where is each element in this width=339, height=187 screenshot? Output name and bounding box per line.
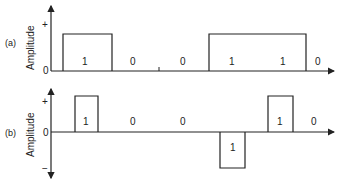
panel-b-bit-2: 0 [130, 116, 136, 127]
panel-b-bit-5: 1 [277, 116, 283, 127]
panel-a: (a) Amplitude + 0 1 0 0 1 1 0 [5, 6, 334, 76]
panel-b-bit-3: 0 [180, 116, 186, 127]
panel-b-zero-tick: 0 [43, 127, 49, 138]
panel-b-bit-1: 1 [83, 116, 89, 127]
panel-a-plus-tick: + [42, 19, 48, 30]
panel-a-bit-1: 1 [82, 56, 88, 67]
panel-a-pulse-2 [209, 34, 306, 71]
panel-a-bit-4: 1 [229, 56, 235, 67]
panel-b-bit-6: 0 [311, 116, 317, 127]
panel-a-bit-6: 0 [315, 56, 321, 67]
panel-a-label: (a) [5, 38, 16, 48]
line-coding-diagram: (a) Amplitude + 0 1 0 0 1 1 0 (b) Amplit… [0, 0, 339, 187]
panel-b-bit-4: 1 [230, 142, 236, 153]
panel-b-ylabel: Amplitude [25, 112, 36, 157]
panel-b-plus-tick: + [42, 96, 48, 107]
panel-a-bit-5: 1 [280, 56, 286, 67]
panel-a-bit-3: 0 [180, 56, 186, 67]
panel-a-bit-2: 0 [130, 56, 136, 67]
panel-b-minus-tick: − [42, 163, 48, 174]
panel-a-ylabel: Amplitude [25, 25, 36, 70]
panel-a-zero-tick: 0 [43, 65, 49, 76]
panel-b-label: (b) [5, 128, 16, 138]
panel-b: (b) Amplitude + 0 − 1 0 0 1 1 0 [5, 89, 334, 178]
